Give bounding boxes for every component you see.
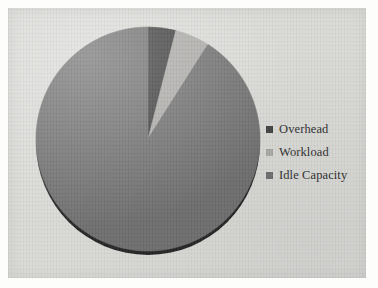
pie-slices (36, 27, 260, 251)
pie-slice-idle-capacity[interactable] (36, 27, 260, 251)
pie-chart-screenshot: Overhead Workload Idle Capacity (0, 0, 378, 288)
legend-item-idle-capacity[interactable]: Idle Capacity (266, 164, 347, 187)
legend-label: Overhead (279, 123, 328, 136)
chart-legend: Overhead Workload Idle Capacity (266, 118, 347, 187)
legend-swatch-icon (266, 149, 273, 156)
legend-label: Workload (279, 146, 329, 159)
legend-item-overhead[interactable]: Overhead (266, 118, 347, 141)
legend-swatch-icon (266, 126, 273, 133)
chart-plot-area: Overhead Workload Idle Capacity (8, 8, 366, 278)
legend-item-workload[interactable]: Workload (266, 141, 347, 164)
legend-swatch-icon (266, 172, 273, 179)
legend-label: Idle Capacity (279, 169, 347, 182)
